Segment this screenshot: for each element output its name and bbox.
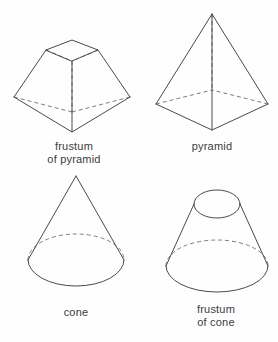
figure-cone <box>14 170 138 300</box>
diagram-page: frustum of pyramid pyramid con <box>0 0 278 342</box>
caption-frustum-of-pyramid: frustum of pyramid <box>12 140 136 166</box>
cone-slant-right <box>76 176 124 260</box>
frustum-cone-base-hidden-arc <box>166 240 268 266</box>
frustum-of-cone-drawing <box>158 182 276 300</box>
caption-pyramid: pyramid <box>152 140 272 153</box>
frustum-pyramid-hidden-base-right <box>72 97 130 112</box>
frustum-pyramid-edge-right <box>98 50 130 97</box>
figure-frustum-of-pyramid <box>6 22 138 142</box>
frustum-cone-slant-right <box>240 204 268 266</box>
frustum-of-pyramid-drawing <box>6 22 138 142</box>
frustum-pyramid-hidden-base-left <box>14 97 72 112</box>
figure-frustum-of-cone <box>158 182 276 300</box>
pyramid-hidden-base-right <box>212 90 268 104</box>
figure-pyramid <box>150 6 274 142</box>
cone-base-hidden-arc <box>28 234 124 260</box>
pyramid-drawing <box>150 6 274 142</box>
cone-drawing <box>14 170 138 300</box>
pyramid-hidden-base-left <box>156 90 212 104</box>
cone-base-front-arc <box>28 260 124 286</box>
caption-frustum-of-cone: frustum of cone <box>156 303 276 329</box>
pyramid-edge-left <box>156 14 212 104</box>
frustum-cone-base-front-arc <box>166 266 268 292</box>
pyramid-edge-right <box>212 14 268 104</box>
frustum-cone-slant-left <box>166 204 194 266</box>
frustum-pyramid-top-face <box>46 40 98 61</box>
caption-cone: cone <box>18 306 134 319</box>
frustum-cone-top-ellipse <box>194 190 240 218</box>
cone-slant-left <box>28 176 76 260</box>
frustum-pyramid-edge-left <box>14 50 46 97</box>
